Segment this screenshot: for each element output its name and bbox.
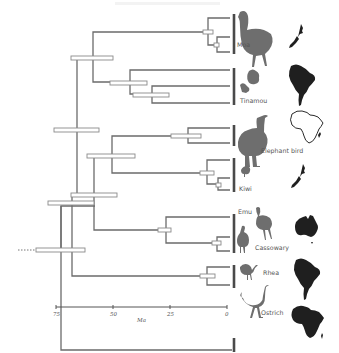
taxon-label-tinamou: Tinamou [239,97,267,104]
tree-branches [61,18,232,350]
map-south-america-icon [289,65,315,107]
taxon-label-elephant-bird: Elephant bird [261,147,303,155]
time-axis: 75 50 25 0 Ma [53,305,229,323]
faint-title-strip [115,2,220,5]
map-africa-icon [292,306,325,339]
taxon-label-emu: Emu [238,208,252,215]
axis-tick-25: 25 [166,311,174,317]
map-australia-icon [295,215,318,244]
axis-label-ma: Ma [136,317,146,323]
taxon-label-moa: Moa [237,41,250,48]
emu-silhouette-icon [256,207,272,240]
rhea-silhouette-icon [240,264,258,280]
axis-tick-0: 0 [225,311,229,317]
map-africa-madagascar-icon [291,111,324,143]
map-new-zealand-kiwi-icon [291,164,305,188]
axis-tick-50: 50 [110,311,117,317]
taxon-label-ostrich: Ostrich [261,309,284,316]
map-new-zealand-icon [289,24,303,48]
taxon-label-kiwi: Kiwi [239,185,252,192]
moa-silhouette-icon [238,11,273,67]
map-south-america-rhea-icon [294,259,320,301]
taxon-label-cassowary: Cassowary [255,244,289,252]
confidence-interval-bars [36,30,221,278]
phylogeny-diagram: Moa Tinamou Elephant bird Kiwi Emu Casso… [0,0,339,353]
cassowary-silhouette-icon [237,226,249,253]
taxon-label-rhea: Rhea [263,269,279,276]
elephant-bird-silhouette-icon [238,115,268,167]
tinamou-silhouette-icon [240,70,259,94]
kiwi-silhouette-icon [239,166,250,177]
axis-tick-75: 75 [53,311,60,317]
